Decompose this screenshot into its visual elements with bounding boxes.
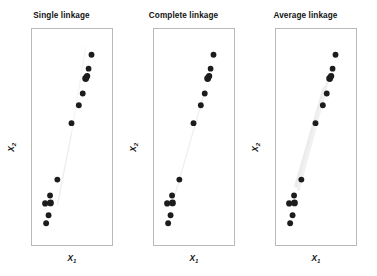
panel-title-average-linkage: Average linkage bbox=[244, 11, 367, 21]
data-point bbox=[47, 192, 53, 198]
x-axis-label-complete-linkage: X1 bbox=[153, 254, 235, 266]
data-point bbox=[84, 73, 90, 79]
y-axis-label-sub: 2 bbox=[11, 143, 17, 146]
data-point bbox=[333, 52, 339, 58]
data-point bbox=[176, 177, 182, 183]
plot-area-average-linkage bbox=[275, 28, 357, 246]
y-axis-label-text: X bbox=[250, 146, 260, 152]
panel-title-single-linkage: Single linkage bbox=[0, 11, 123, 21]
data-point bbox=[290, 212, 296, 218]
data-point bbox=[43, 220, 49, 226]
data-point bbox=[330, 66, 336, 72]
cluster-link-complete bbox=[173, 91, 205, 203]
data-point bbox=[86, 66, 92, 72]
data-point bbox=[320, 102, 326, 108]
x-axis-label-sub: 1 bbox=[73, 258, 76, 264]
y-axis-label-average-linkage: X2 bbox=[251, 122, 263, 152]
figure-canvas: Single linkage X2 bbox=[0, 0, 377, 276]
data-point bbox=[47, 200, 54, 207]
y-axis-label-sub: 2 bbox=[255, 143, 261, 146]
panel-single-linkage: Single linkage X2 bbox=[0, 0, 123, 276]
scatter-svg-single-linkage bbox=[32, 29, 112, 245]
data-point bbox=[169, 200, 176, 207]
x-axis-label-average-linkage: X1 bbox=[275, 254, 357, 266]
plot-area-complete-linkage bbox=[153, 28, 235, 246]
data-point bbox=[291, 200, 298, 207]
data-point bbox=[69, 120, 75, 126]
scatter-svg-average-linkage bbox=[276, 29, 356, 245]
data-point bbox=[168, 212, 174, 218]
plot-area-single-linkage bbox=[31, 28, 113, 246]
data-point bbox=[206, 73, 212, 79]
data-point bbox=[211, 52, 217, 58]
data-point bbox=[169, 192, 175, 198]
data-point bbox=[54, 177, 60, 183]
data-point bbox=[202, 90, 208, 96]
y-axis-label-text: X bbox=[128, 146, 138, 152]
data-point bbox=[208, 66, 214, 72]
y-axis-label-single-linkage: X2 bbox=[7, 122, 19, 152]
cluster-link-average-band-2 bbox=[298, 81, 327, 190]
data-point bbox=[313, 120, 319, 126]
data-point bbox=[198, 102, 204, 108]
data-point bbox=[80, 90, 86, 96]
data-point bbox=[89, 52, 95, 58]
data-point bbox=[287, 220, 293, 226]
x-axis-label-sub: 1 bbox=[317, 258, 320, 264]
cluster-link-single bbox=[57, 133, 71, 205]
x-axis-label-sub: 1 bbox=[195, 258, 198, 264]
data-point bbox=[291, 192, 297, 198]
panel-complete-linkage: Complete linkage X2 X1 bbox=[122, 0, 245, 276]
cluster-branch-single-upper bbox=[72, 47, 86, 133]
y-axis-label-text: X bbox=[6, 146, 16, 152]
y-axis-label-complete-linkage: X2 bbox=[129, 122, 141, 152]
data-point bbox=[328, 73, 334, 79]
x-axis-label-single-linkage: X1 bbox=[31, 254, 113, 266]
data-point bbox=[191, 120, 197, 126]
panel-title-complete-linkage: Complete linkage bbox=[122, 11, 245, 21]
y-axis-label-sub: 2 bbox=[133, 143, 139, 146]
panel-average-linkage: Average linkage X2 bbox=[244, 0, 367, 276]
data-point bbox=[298, 177, 304, 183]
data-point bbox=[324, 90, 330, 96]
data-point bbox=[76, 102, 82, 108]
scatter-svg-complete-linkage bbox=[154, 29, 234, 245]
data-point bbox=[165, 220, 171, 226]
data-point bbox=[46, 212, 52, 218]
